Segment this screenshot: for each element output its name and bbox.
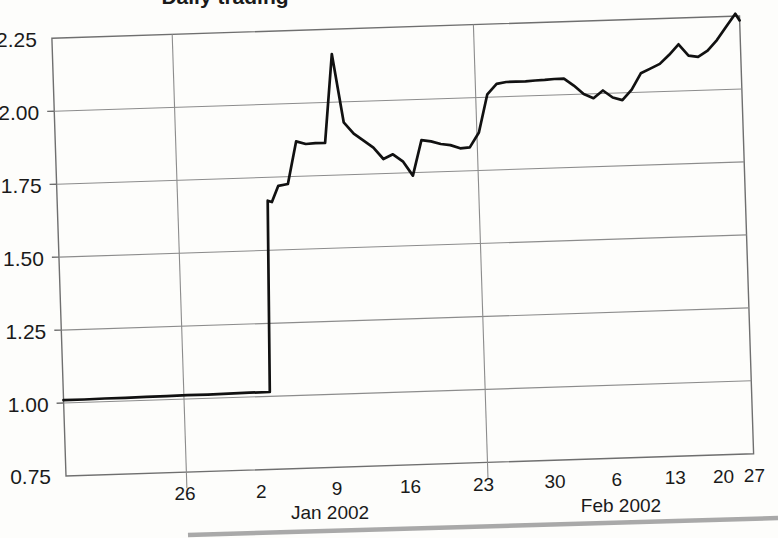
x-tick-label: 2	[256, 481, 267, 502]
x-tick-label: 9	[332, 478, 343, 499]
x-axis-labels: 26291623306132027	[174, 465, 765, 504]
y-axis-labels: 0.751.001.251.501.752.002.25	[0, 28, 51, 489]
data-series-layer	[64, 14, 740, 400]
x-tick-label: 13	[665, 467, 686, 488]
x-axis-group-label-feb: Feb 2002	[581, 495, 661, 516]
x-tick-label: 20	[713, 466, 734, 487]
data-series-1	[64, 14, 740, 400]
horizontal-gridlines	[54, 89, 751, 403]
y-tick-label: 1.50	[3, 247, 44, 270]
y-tick-label: 1.25	[5, 320, 46, 343]
chart-container: 0.751.001.251.501.752.002.25 26291623306…	[0, 0, 778, 538]
chart-title: Daily trading	[161, 0, 288, 8]
y-tick-label: 1.75	[1, 174, 42, 197]
x-tick-label: 27	[744, 465, 765, 486]
y-tick-label: 2.00	[0, 101, 39, 124]
y-tick-label: 0.75	[10, 465, 51, 488]
y-tick-label: 1.00	[8, 393, 49, 416]
x-tick-label: 6	[612, 469, 623, 490]
x-tick-label: 23	[473, 474, 494, 495]
x-tick-label: 26	[174, 483, 195, 504]
x-axis-group-label-jan: Jan 2002	[291, 502, 369, 523]
page-edge-artifact	[188, 518, 778, 535]
line-chart: 0.751.001.251.501.752.002.25 26291623306…	[0, 0, 778, 538]
y-tick-label: 2.25	[0, 28, 37, 51]
x-tick-label: 30	[544, 471, 565, 492]
x-tick-label: 16	[400, 476, 421, 497]
